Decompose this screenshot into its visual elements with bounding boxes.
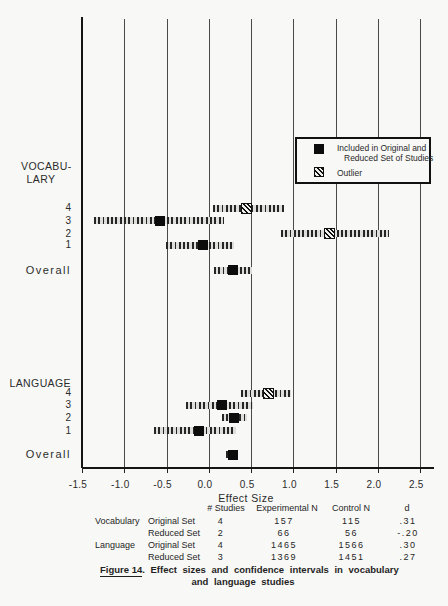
summary-table: # StudiesExperimental NControl NdVocabul… (0, 0, 448, 606)
table-set-label: Reduced Set (148, 528, 200, 538)
table-value: 4 (218, 540, 225, 550)
table-value: 56 (345, 528, 358, 538)
table-value: -.20 (397, 528, 419, 538)
table-value: 2 (218, 528, 225, 538)
table-value: 115 (342, 516, 361, 526)
figure-caption-line2: and language studies (191, 576, 294, 587)
table-value: .31 (399, 516, 416, 526)
table-header-0: # Studies (207, 503, 245, 513)
table-header-3: d (404, 503, 409, 513)
table-value: .30 (399, 540, 416, 550)
table-group-label: Vocabulary (95, 516, 140, 526)
table-set-label: Original Set (148, 516, 195, 526)
table-value: 4 (218, 516, 225, 526)
table-header-2: Control N (332, 503, 370, 513)
scanned-figure-page: -1.5-1.0-0.50.00.51.01.52.02.5VOCABU-LAR… (0, 0, 448, 606)
table-value: 66 (277, 528, 290, 538)
table-group-label: Language (95, 540, 135, 550)
table-value: .27 (399, 552, 416, 562)
table-value: 1566 (338, 540, 364, 550)
table-value: 1465 (271, 540, 297, 550)
figure-caption-text: . Effect sizes and confidence intervals … (142, 564, 398, 575)
table-set-label: Reduced Set (148, 552, 200, 562)
table-value: 1369 (271, 552, 297, 562)
table-value: 157 (274, 516, 294, 526)
table-set-label: Original Set (148, 540, 195, 550)
table-value: 3 (218, 552, 225, 562)
table-value: 1451 (338, 552, 364, 562)
table-header-1: Experimental N (256, 503, 318, 513)
figure-caption-line1: Figure 14. Effect sizes and confidence i… (100, 564, 399, 575)
figure-number-label: Figure 14 (100, 564, 142, 577)
